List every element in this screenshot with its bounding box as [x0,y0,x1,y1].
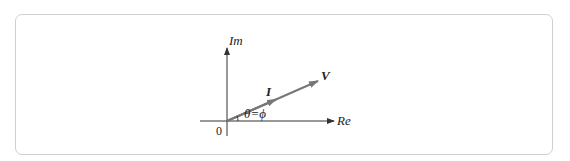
origin-label: 0 [216,124,222,138]
re-axis-label: Re [336,113,351,128]
im-axis-label: Im [228,33,243,48]
vector-i-label: I [265,84,272,99]
phasor-diagram: Im Re 0 V I θ=ϕ [0,0,570,161]
vector-v-label: V [321,68,331,83]
angle-label: θ=ϕ [244,106,266,121]
